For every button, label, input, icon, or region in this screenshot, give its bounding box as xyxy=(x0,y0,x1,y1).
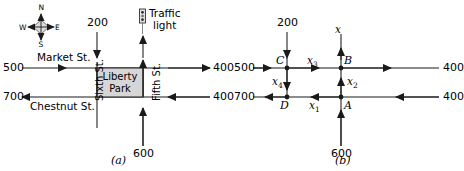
compass-label-south: S xyxy=(39,41,44,49)
panel-b-caption: (b) xyxy=(335,155,351,166)
node-label-b: B xyxy=(344,55,352,66)
variable-label-x1: x1 xyxy=(309,100,320,114)
compass-rose xyxy=(28,14,54,40)
variable-x4-sub: 4 xyxy=(278,81,283,90)
node-a-dot xyxy=(339,95,344,100)
variable-label-x3: x3 xyxy=(307,55,318,69)
compass-label-east: E xyxy=(55,24,60,32)
flow-label-700-left-b: 700 xyxy=(234,91,255,102)
node-c-dot xyxy=(285,66,290,71)
flow-label-600-bottom: 600 xyxy=(133,148,154,159)
variable-label-x4: x4 xyxy=(272,76,283,90)
variable-x-base: x xyxy=(335,23,341,35)
node-label-c: C xyxy=(276,55,284,66)
compass-label-north: N xyxy=(39,4,45,12)
flow-label-400-right-top-b: 400 xyxy=(443,62,464,73)
flow-label-200-top-b: 200 xyxy=(277,17,298,28)
variable-x1-sub: 1 xyxy=(315,105,320,114)
flow-label-400-right-bottom-b: 400 xyxy=(443,91,464,102)
park-label-line1: Liberty xyxy=(103,71,138,82)
traffic-light-label-line1: Traffic xyxy=(149,8,181,19)
compass-label-west: W xyxy=(19,24,26,32)
node-label-d: D xyxy=(280,100,289,111)
variable-label-x: x xyxy=(335,24,341,35)
park-label: Liberty Park xyxy=(99,71,141,94)
flow-label-500-left-b: 500 xyxy=(234,62,255,73)
street-label-market: Market St. xyxy=(37,52,91,63)
variable-x3-sub: 3 xyxy=(313,60,318,69)
park-label-line2: Park xyxy=(109,83,131,94)
node-label-a: A xyxy=(344,100,352,111)
panel-b-network-diagram: 200 500 700 400 400 600 C B D A x x3 x4 … xyxy=(231,0,462,171)
flow-label-700-left: 700 xyxy=(3,91,24,102)
traffic-light-label-line2: light xyxy=(153,20,176,31)
variable-x2-sub: 2 xyxy=(353,81,358,90)
panel-a-caption: (a) xyxy=(111,155,126,166)
variable-label-x2: x2 xyxy=(347,76,358,90)
node-b-dot xyxy=(339,66,344,71)
flow-label-500-left: 500 xyxy=(3,62,24,73)
panel-a-street-map: N E S W Traffic light 200 500 700 400 40… xyxy=(0,0,231,171)
flow-label-200-top: 200 xyxy=(87,17,108,28)
street-label-chestnut: Chestnut St. xyxy=(30,101,95,112)
traffic-light-icon xyxy=(140,9,146,34)
street-label-fifth: Fifth St. xyxy=(152,63,162,101)
